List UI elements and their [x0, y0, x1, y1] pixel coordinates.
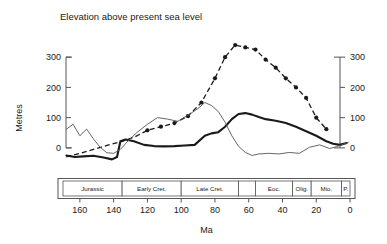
series-line-thin-solid — [66, 103, 348, 156]
y-axis-left: 0100200300 — [46, 52, 72, 153]
data-point-marker — [284, 76, 288, 80]
elevation-chart: Elevation above present sea level Metres… — [0, 0, 387, 244]
y-tick-label-right: 300 — [350, 52, 365, 62]
x-axis-ticks: 160140120100806040200 — [72, 199, 352, 215]
x-tick-label: 20 — [311, 205, 321, 215]
y-tick-label-right: 200 — [350, 83, 365, 93]
timescale-segment-label: Eoc. — [268, 185, 281, 192]
data-point-marker — [304, 96, 308, 100]
x-tick-label: 140 — [106, 205, 121, 215]
timescale-segment-label: Olig. — [296, 185, 309, 192]
timescale-segment-label: P. — [343, 185, 348, 192]
geologic-timescale: JurassicEarly Cret.Late Cret.Eoc.Olig.Mi… — [58, 179, 355, 199]
x-tick-label: 100 — [174, 205, 189, 215]
data-series-group — [66, 43, 348, 159]
series-line-dashed-with-markers — [66, 45, 326, 157]
timescale-segment-label: Mio. — [321, 185, 333, 192]
data-point-marker — [274, 66, 278, 70]
x-tick-label: 120 — [140, 205, 155, 215]
y-tick-label-right: 0 — [350, 143, 355, 153]
y-axis-right: 0100200300 — [334, 52, 365, 153]
data-point-marker — [294, 85, 298, 89]
data-point-marker — [233, 43, 237, 47]
data-point-marker — [159, 125, 163, 129]
data-point-marker — [324, 127, 328, 131]
timescale-segment-label: Jurassic — [81, 185, 104, 192]
y-tick-label-right: 100 — [350, 113, 365, 123]
chart-title: Elevation above present sea level — [60, 11, 202, 22]
x-tick-label: 60 — [244, 205, 254, 215]
timescale-segment-label: Early Cret. — [137, 185, 167, 192]
data-point-marker — [253, 47, 257, 51]
y-axis-label: Metres — [14, 104, 24, 132]
data-point-marker — [314, 116, 318, 120]
data-point-marker — [172, 121, 176, 125]
timescale-segment — [239, 181, 256, 196]
data-point-marker — [243, 45, 247, 49]
x-axis-label: Ma — [200, 225, 213, 235]
data-point-marker — [145, 128, 149, 132]
x-tick-label: 0 — [347, 205, 352, 215]
y-tick-label-left: 300 — [46, 52, 61, 62]
y-tick-label-left: 100 — [46, 113, 61, 123]
x-tick-label: 160 — [72, 205, 87, 215]
x-tick-label: 40 — [277, 205, 287, 215]
data-point-marker — [223, 55, 227, 59]
x-tick-label: 80 — [210, 205, 220, 215]
y-tick-label-left: 200 — [46, 83, 61, 93]
timescale-segment-label: Late Cret. — [196, 185, 223, 192]
y-tick-label-left: 0 — [56, 143, 61, 153]
data-point-marker — [263, 57, 267, 61]
data-point-marker — [213, 76, 217, 80]
chart-figure: Elevation above present sea level Metres… — [0, 0, 387, 244]
